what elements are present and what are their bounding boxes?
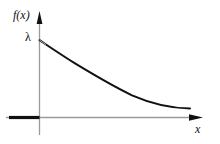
x-axis-label: x: [195, 123, 200, 135]
plot-canvas: [0, 0, 220, 144]
exponential-distribution-figure: f(x) x λ: [0, 0, 220, 144]
lambda-intercept-marker: [40, 40, 47, 44]
y-axis-label: f(x): [13, 9, 30, 21]
x-axis-arrowhead: [189, 114, 203, 120]
exponential-decay-curve: [40, 40, 191, 108]
y-axis-lambda-tick-label: λ: [25, 31, 31, 43]
y-axis-arrowhead: [37, 11, 43, 24]
